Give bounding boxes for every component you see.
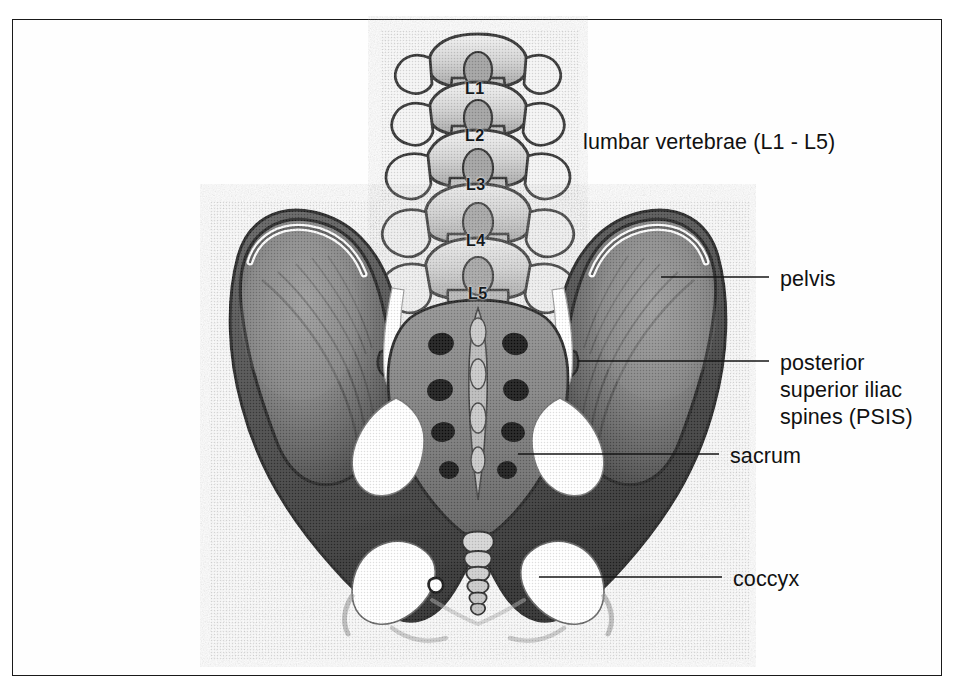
vertebra-label-L3: L3 <box>466 176 485 194</box>
coccyx <box>462 532 494 616</box>
vertebra-label-L4: L4 <box>466 232 485 250</box>
callout-pelvis: pelvis <box>780 266 836 293</box>
callout-lumbar-vertebrae: lumbar vertebrae (L1 - L5) <box>583 129 835 156</box>
ischial-foramen-detail <box>429 578 444 593</box>
pelvis-illustration <box>0 0 955 689</box>
vertebra-label-L1: L1 <box>465 80 484 98</box>
callout-coccyx: coccyx <box>733 566 799 593</box>
vertebra-label-L5: L5 <box>468 285 487 303</box>
vertebra-label-L2: L2 <box>465 127 484 145</box>
callout-sacrum: sacrum <box>730 443 801 470</box>
callout-psis: posterior superior iliac spines (PSIS) <box>780 350 913 431</box>
figure-root: L1 L2 L3 L4 L5 lumbar vertebrae (L1 - L5… <box>0 0 955 689</box>
